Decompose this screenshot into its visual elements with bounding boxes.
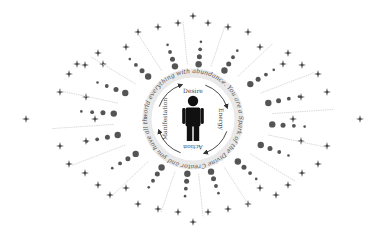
sparkle-star-icon — [356, 115, 364, 123]
sparkle-star-icon — [279, 60, 287, 68]
dot-ray — [221, 49, 238, 73]
dot-ray — [247, 69, 275, 88]
dot-ray — [269, 121, 306, 128]
manifestation-diagram: world everything with abundance. You are… — [0, 0, 387, 238]
cycle-label-desire: Desire — [183, 87, 203, 94]
sparkle-star-icon — [314, 160, 322, 168]
dot-ray — [265, 95, 300, 106]
text-ray — [72, 145, 125, 165]
text-ray — [59, 91, 118, 103]
sparkle-star-icon — [82, 93, 90, 101]
sparkle-star-icon — [323, 88, 331, 96]
text-ray — [161, 172, 175, 213]
dot-ray — [166, 44, 178, 70]
sparkle-star-icon — [272, 191, 280, 199]
sparkle-star-icon — [244, 200, 252, 208]
dot-ray — [86, 132, 121, 143]
text-ray — [137, 33, 162, 71]
cycle-label-energy: Energy — [217, 108, 225, 131]
sparkle-star-icon — [22, 115, 30, 123]
sparkle-star-icon — [122, 43, 130, 51]
dot-ray — [128, 58, 151, 80]
dot-ray — [208, 168, 220, 194]
text-ray — [52, 124, 114, 128]
dot-ray — [195, 41, 202, 68]
text-ray — [211, 25, 225, 66]
dot-ray — [147, 164, 164, 188]
sparkle-star-icon — [94, 49, 102, 57]
sparkle-star-icon — [81, 61, 89, 69]
dot-ray — [111, 151, 139, 170]
sparkle-star-icon — [154, 23, 162, 31]
sparkle-star-icon — [284, 181, 292, 189]
sparkle-star-icon — [244, 28, 252, 36]
sparkle-star-icon — [224, 205, 232, 213]
sparkle-star-icon — [73, 60, 81, 68]
text-ray — [261, 73, 314, 93]
cycle-label-action: Action — [183, 144, 204, 151]
sparkle-star-icon — [174, 208, 182, 216]
sparkle-star-icon — [122, 184, 130, 192]
text-ray — [272, 109, 334, 113]
sparkle-star-icon — [94, 181, 102, 189]
sparkle-star-icon — [189, 218, 197, 226]
diagram-canvas: world everything with abundance. You are… — [0, 0, 387, 238]
sparkle-star-icon — [134, 200, 142, 208]
sparkle-star-icon — [256, 184, 264, 192]
sparkle-star-icon — [204, 19, 212, 27]
sparkle-star-icon — [314, 70, 322, 78]
sparkle-star-icon — [174, 19, 182, 27]
text-ray — [250, 154, 295, 181]
text-ray — [183, 21, 187, 64]
sparkle-star-icon — [284, 49, 292, 57]
sparkle-star-icon — [56, 142, 64, 150]
sparkle-star-icon — [65, 160, 73, 168]
sparkle-star-icon — [189, 12, 197, 20]
text-ray — [224, 168, 249, 206]
sparkle-star-icon — [99, 60, 107, 68]
sparkle-star-icon — [56, 88, 64, 96]
dot-ray — [80, 110, 117, 117]
sparkle-star-icon — [65, 70, 73, 78]
dot-ray — [184, 171, 191, 198]
sparkle-star-icon — [323, 142, 331, 150]
sparkle-star-icon — [224, 23, 232, 31]
person-icon — [182, 96, 204, 141]
sparkle-star-icon — [289, 115, 297, 123]
sparkle-star-icon — [91, 115, 99, 123]
sparkle-star-icon — [298, 61, 306, 69]
sparkle-star-icon — [298, 169, 306, 177]
sparkle-star-icon — [204, 208, 212, 216]
dot-ray — [235, 158, 258, 180]
sparkle-star-icon — [81, 169, 89, 177]
sparkle-star-icon — [256, 43, 264, 51]
dot-ray — [96, 81, 128, 96]
dot-ray — [258, 142, 290, 157]
sparkle-star-icon — [106, 191, 114, 199]
text-ray — [199, 174, 203, 217]
text-ray — [91, 57, 136, 84]
cycle-label-manifestation: Manifestation — [161, 98, 168, 140]
text-ray — [113, 162, 148, 195]
text-ray — [238, 43, 273, 76]
text-ray — [268, 135, 327, 147]
